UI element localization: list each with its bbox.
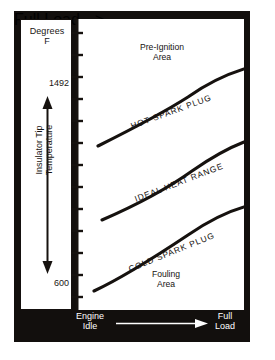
chart-plate: Degrees F 1492 600 Insulator TipTemperat… bbox=[14, 11, 250, 342]
y-axis-unit-line2: F bbox=[44, 36, 50, 46]
y-axis-unit-line1: Degrees bbox=[30, 26, 65, 36]
x-axis-right-line2: Load bbox=[215, 321, 235, 331]
x-axis-right-line1: Full bbox=[218, 311, 233, 321]
plot-area: HOT SPARK PLUG IDEAL HEAT RANGE COLD SPA… bbox=[76, 19, 244, 310]
spark-plug-heat-range-figure: Degrees F 1492 600 Insulator TipTemperat… bbox=[0, 0, 275, 360]
y-axis-title: Insulator TipTemperature bbox=[34, 80, 54, 220]
y-axis-panel: Degrees F 1492 600 Insulator TipTemperat… bbox=[20, 19, 72, 310]
y-tick-label-600: 600 bbox=[21, 278, 69, 288]
x-axis-left-label: Engine Idle bbox=[66, 311, 114, 331]
pre-ignition-label-line1: Pre-Ignition bbox=[140, 42, 184, 52]
fouling-area-annotation: Fouling Area bbox=[142, 267, 190, 291]
plot-svg: HOT SPARK PLUG IDEAL HEAT RANGE COLD SPA… bbox=[76, 19, 244, 310]
x-axis-left-line1: Engine bbox=[76, 311, 104, 321]
fouling-label-line2: Area bbox=[157, 279, 175, 289]
fouling-label-line1: Fouling bbox=[152, 269, 180, 279]
load-direction-arrow-icon bbox=[116, 319, 208, 328]
y-axis-spine bbox=[70, 19, 84, 310]
x-axis-left-line2: Idle bbox=[83, 321, 98, 331]
y-axis-unit-label: Degrees F bbox=[21, 26, 73, 46]
pre-ignition-label-line2: Area bbox=[153, 52, 171, 62]
pre-ignition-area-annotation: Pre-Ignition Area bbox=[130, 41, 194, 63]
x-axis-right-label: Full Load bbox=[208, 311, 242, 331]
x-axis-footer: Engine Idle Full Load bbox=[20, 310, 244, 336]
